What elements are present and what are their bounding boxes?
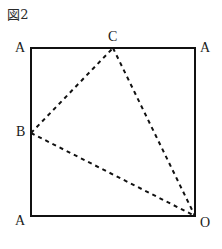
dashed-edge-b-c: [31, 48, 113, 133]
dashed-edge-b-o: [31, 133, 195, 216]
vertex-label-corner-bottom-left: A: [15, 214, 25, 228]
dashed-edge-c-o: [113, 48, 195, 216]
vertex-label-corner-top-right: A: [200, 41, 210, 55]
vertex-label-point-c: C: [108, 30, 117, 44]
figure-2-container: 図2 A A A O C B: [0, 0, 222, 249]
square-outline: [31, 48, 195, 216]
vertex-label-corner-top-left: A: [15, 41, 25, 55]
vertex-label-point-b: B: [16, 125, 25, 139]
vertex-label-corner-bottom-right: O: [200, 216, 210, 230]
